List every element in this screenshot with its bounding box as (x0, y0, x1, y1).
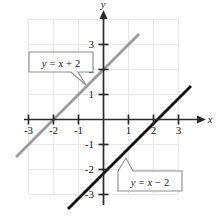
callout-y-equals-x-plus-2: y=x+2 (29, 52, 93, 85)
y-tick-label: -2 (85, 163, 94, 175)
coordinate-plane: x y -3 -2 -1 1 2 3 3 2 1 -1 -2 -3 y=x+2 … (0, 0, 221, 216)
x-tick-label: -2 (49, 124, 58, 136)
y-tick-label: 1 (89, 88, 95, 100)
x-tick-label: 1 (126, 124, 132, 136)
y-tick-label: -1 (85, 138, 94, 150)
x-tick-label: 2 (151, 124, 157, 136)
graph-figure: x y -3 -2 -1 1 2 3 3 2 1 -1 -2 -3 y=x+2 … (0, 0, 221, 216)
x-tick-label: -1 (74, 124, 83, 136)
y-axis-label: y (100, 0, 106, 10)
x-axis-label: x (207, 114, 213, 125)
x-tick-label: 3 (176, 124, 182, 136)
x-tick-label: -3 (24, 124, 34, 136)
y-tick-label: -3 (85, 188, 95, 200)
y-tick-label: 3 (89, 38, 95, 50)
callout-y-equals-x-minus-2: y=x−2 (118, 158, 182, 191)
